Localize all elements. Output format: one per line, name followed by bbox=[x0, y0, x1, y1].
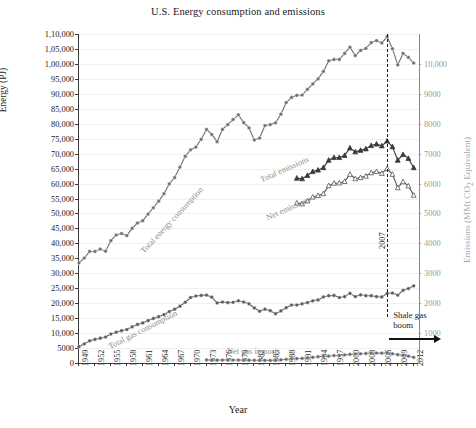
y-tick-left: 40,000 bbox=[51, 239, 74, 248]
y-tick-left: 80,000 bbox=[51, 119, 74, 128]
y-tick-left: 1,05,000 bbox=[45, 44, 74, 53]
arrow-shaft bbox=[389, 338, 435, 340]
y-tick-left: 60,000 bbox=[51, 179, 74, 188]
y-tick-right: 3000 bbox=[424, 269, 441, 278]
y-tick-left: 5000 bbox=[57, 344, 74, 353]
y-tick-left: 75,000 bbox=[51, 134, 74, 143]
y-axis-left-label: Energy (PJ) bbox=[0, 30, 8, 150]
x-axis-label: Year bbox=[0, 404, 476, 415]
plot-area: 2007Shale gasboom Total energy consumpti… bbox=[78, 34, 420, 363]
y-tick-right: 8000 bbox=[424, 119, 441, 128]
shale-gas-boom-arrow-icon bbox=[389, 335, 443, 344]
y-tick-left: 30,000 bbox=[51, 269, 74, 278]
y-axis-right-label: Emissions (MMt CO2 Equivalent) bbox=[462, 80, 475, 320]
y-tick-right: 10,000 bbox=[424, 59, 447, 68]
series-total-emissions bbox=[294, 138, 416, 180]
event-line-2007-label: 2007 bbox=[378, 232, 387, 249]
shale-gas-boom-label: Shale gasboom bbox=[393, 311, 426, 330]
x-axis-line bbox=[78, 363, 418, 364]
y-tick-right: 9000 bbox=[424, 89, 441, 98]
label-net-gas-imports: Net gas imports bbox=[227, 347, 280, 356]
y-axis-right-label-post: Equivalent) bbox=[462, 137, 472, 182]
y-tick-left: 35,000 bbox=[51, 254, 74, 263]
y-tick-left: 10,000 bbox=[51, 329, 74, 338]
event-line-2007 bbox=[387, 34, 388, 317]
y-tick-left: 20,000 bbox=[51, 299, 74, 308]
y-tick-right: 4000 bbox=[424, 239, 441, 248]
chart-figure: U.S. Energy consumption and emissions En… bbox=[0, 0, 476, 428]
y-tick-left: 70,000 bbox=[51, 149, 74, 158]
y-tick-left: 25,000 bbox=[51, 284, 74, 293]
shale-gas-boom-line2: boom bbox=[393, 321, 426, 331]
y-tick-left: 85,000 bbox=[51, 104, 74, 113]
y-tick-left: 0 bbox=[70, 359, 74, 368]
y-tick-left: 90,000 bbox=[51, 89, 74, 98]
y-tick-right: 7000 bbox=[424, 149, 441, 158]
y-axis-right-label-pre: Emissions (MMt CO bbox=[462, 186, 472, 263]
series-layer bbox=[79, 34, 419, 363]
y-axis-right-label-sub: 2 bbox=[466, 182, 475, 186]
y-tick-left: 55,000 bbox=[51, 194, 74, 203]
y-tick-left: 15,000 bbox=[51, 314, 74, 323]
y-tick-left: 65,000 bbox=[51, 164, 74, 173]
y-tick-left: 50,000 bbox=[51, 209, 74, 218]
y-tick-right: 5000 bbox=[424, 209, 441, 218]
y-tick-left: 45,000 bbox=[51, 224, 74, 233]
chart-title: U.S. Energy consumption and emissions bbox=[0, 6, 476, 17]
y-tick-left: 1,00,000 bbox=[45, 59, 74, 68]
y-tick-right: 2000 bbox=[424, 299, 441, 308]
y-tick-right: 6000 bbox=[424, 179, 441, 188]
y-tick-left: 1,10,000 bbox=[45, 30, 74, 39]
arrow-head bbox=[434, 335, 441, 343]
y-tick-left: 95,000 bbox=[51, 74, 74, 83]
